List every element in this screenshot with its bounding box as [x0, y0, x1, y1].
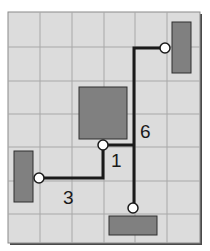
block-top-right	[172, 22, 191, 73]
label-6: 6	[140, 121, 151, 142]
node-bottom	[128, 203, 138, 213]
label-1: 1	[111, 150, 122, 171]
node-top-right	[160, 43, 170, 53]
node-left	[34, 173, 44, 183]
node-center	[98, 140, 108, 150]
block-left	[14, 151, 33, 202]
block-center	[79, 87, 127, 139]
block-bottom	[109, 216, 157, 235]
label-3: 3	[63, 187, 74, 208]
wire-routing-diagram: 6 1 3	[0, 0, 210, 251]
